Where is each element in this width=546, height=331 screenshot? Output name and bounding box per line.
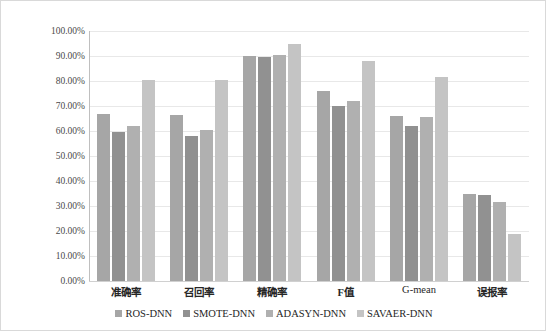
legend-label: SAVAER-DNN: [367, 308, 433, 319]
bar: [362, 61, 375, 281]
bar: [97, 114, 110, 282]
legend-label: ROS-DNN: [125, 308, 172, 319]
y-axis-tick-label: 50.00%: [7, 151, 85, 161]
bar-group: [309, 31, 382, 281]
y-axis-tick-label: 40.00%: [7, 176, 85, 186]
y-axis-tick-label: 80.00%: [7, 76, 85, 86]
x-axis-category-label: F值: [309, 284, 382, 299]
x-axis-category-label: 误报率: [456, 284, 529, 299]
legend-swatch-icon: [266, 310, 273, 317]
legend-label: ADASYN-DNN: [276, 308, 346, 319]
bar-group: [456, 31, 529, 281]
x-axis-category-label: 准确率: [89, 284, 162, 299]
bar: [243, 56, 256, 281]
bar: [258, 57, 271, 281]
bar: [170, 115, 183, 281]
bar: [478, 195, 491, 281]
bar-group: [162, 31, 235, 281]
y-axis-tick-label: 90.00%: [7, 51, 85, 61]
legend-item[interactable]: ADASYN-DNN: [266, 308, 346, 319]
x-axis-category-labels: 准确率召回率精确率F值G-mean误报率: [89, 284, 529, 299]
legend-label: SMOTE-DNN: [193, 308, 255, 319]
x-axis-line: [89, 281, 529, 282]
legend-swatch-icon: [183, 310, 190, 317]
bar-chart-figure: 100.00%90.00%80.00%70.00%60.00%50.00%40.…: [0, 0, 546, 331]
legend-swatch-icon: [115, 310, 122, 317]
bar: [273, 55, 286, 281]
x-axis-category-label: 召回率: [162, 284, 235, 299]
y-axis-tick-label: 60.00%: [7, 126, 85, 136]
bar: [405, 126, 418, 281]
bar: [127, 126, 140, 281]
bar: [420, 117, 433, 281]
bar: [215, 80, 228, 281]
bar: [317, 91, 330, 281]
y-axis-tick-label: 0.00%: [7, 276, 85, 286]
legend-item[interactable]: SAVAER-DNN: [357, 308, 433, 319]
bar: [112, 132, 125, 281]
bar: [332, 106, 345, 281]
bar: [347, 101, 360, 281]
y-axis-tick-label: 100.00%: [7, 26, 85, 36]
y-axis-tick-label: 10.00%: [7, 251, 85, 261]
bar: [508, 234, 521, 282]
x-axis-category-label: 精确率: [236, 284, 309, 299]
bar: [142, 80, 155, 281]
bar-group: [89, 31, 162, 281]
bar: [463, 194, 476, 282]
y-axis-tick-label: 70.00%: [7, 101, 85, 111]
bar-group: [382, 31, 455, 281]
legend-swatch-icon: [357, 310, 364, 317]
bar-group: [236, 31, 309, 281]
y-axis-tick-labels: 100.00%90.00%80.00%70.00%60.00%50.00%40.…: [1, 31, 85, 281]
bar: [390, 116, 403, 281]
legend-item[interactable]: SMOTE-DNN: [183, 308, 255, 319]
bar: [200, 130, 213, 281]
bar: [288, 44, 301, 282]
bar: [435, 77, 448, 281]
x-axis-category-label: G-mean: [382, 284, 455, 299]
y-axis-tick-label: 20.00%: [7, 226, 85, 236]
bar: [185, 136, 198, 281]
bar: [493, 202, 506, 281]
legend-item[interactable]: ROS-DNN: [115, 308, 172, 319]
bar-groups: [89, 31, 529, 281]
y-axis-tick-label: 30.00%: [7, 201, 85, 211]
chart-legend: ROS-DNNSMOTE-DNNADASYN-DNNSAVAER-DNN: [1, 308, 546, 319]
